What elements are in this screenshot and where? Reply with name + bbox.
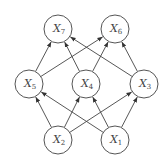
node-x6: X6 <box>101 15 129 43</box>
directed-graph-diagram: X7X6X5X4X3X2X1 <box>0 0 167 159</box>
edge-x1-to-x4 <box>93 97 109 128</box>
node-x4: X4 <box>72 70 100 98</box>
edge-x2-to-x5 <box>36 97 52 128</box>
node-x3: X3 <box>130 70 158 98</box>
edge-x1-to-x3 <box>121 97 137 128</box>
edge-x4-to-x7 <box>65 42 80 72</box>
edge-x5-to-x7 <box>36 42 52 72</box>
node-x2: X2 <box>44 126 72 154</box>
edge-x3-to-x6 <box>122 42 138 72</box>
nodes-group: X7X6X5X4X3X2X1 <box>15 15 158 154</box>
edge-x4-to-x6 <box>93 42 109 72</box>
node-x1: X1 <box>101 126 129 154</box>
node-x7: X7 <box>44 15 72 43</box>
node-x5: X5 <box>15 70 43 98</box>
